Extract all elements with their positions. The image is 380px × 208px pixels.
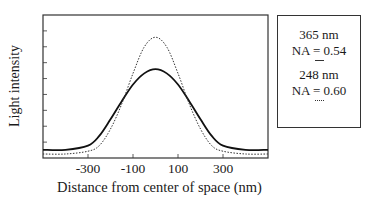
x-tick-label: -300 [76,161,101,177]
legend-line-dotted-icon [278,98,360,107]
x-tick-label: 300 [213,161,233,177]
x-tick-label: 100 [168,161,188,177]
x-ticks [88,154,223,158]
x-tick-label: -100 [121,161,146,177]
legend-entry-1-na: NA = 0.60 [278,83,360,99]
legend-entry-1-wavelength: 248 nm [278,67,360,83]
x-axis-label: Distance from center of space (nm) [57,179,262,196]
plot-frame [43,15,268,158]
legend-line-solid-icon [278,58,360,67]
legend: 365 nm NA = 0.54 248 nm NA = 0.60 [277,15,361,128]
legend-entry-0-na: NA = 0.54 [278,43,360,59]
series-dotted-248nm [43,37,268,154]
y-axis-label: Light intensity [7,45,23,127]
series-solid-365nm [43,69,268,150]
legend-entry-0-wavelength: 365 nm [278,27,360,43]
